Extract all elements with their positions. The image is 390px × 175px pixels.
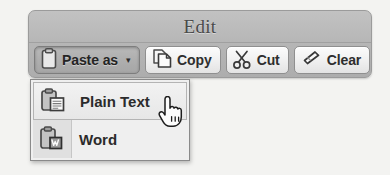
clipboard-word-icon [33, 125, 71, 153]
menu-item-plain-text-label: Plain Text [72, 93, 150, 110]
window-title: Edit [184, 16, 217, 38]
window-titlebar: Edit [29, 11, 371, 43]
copy-pages-icon [152, 48, 172, 73]
clear-label: Clear [327, 52, 362, 68]
menu-item-plain-text[interactable]: Plain Text [33, 82, 187, 120]
paste-as-dropdown-menu: Plain Text Word [30, 79, 190, 161]
chevron-down-icon: ▾ [126, 56, 131, 65]
screenshot-root: Edit Paste as ▾ [0, 0, 390, 175]
edit-window-panel: Edit Paste as ▾ [28, 10, 372, 78]
paste-as-label: Paste as [62, 52, 118, 68]
eraser-icon [301, 48, 322, 73]
scissors-icon [233, 48, 252, 73]
cut-label: Cut [257, 52, 280, 68]
copy-button[interactable]: Copy [145, 46, 221, 74]
cut-button[interactable]: Cut [226, 46, 289, 74]
clear-button[interactable]: Clear [294, 46, 371, 74]
paste-as-button[interactable]: Paste as ▾ [34, 46, 140, 74]
copy-label: Copy [177, 52, 212, 68]
clipboard-text-icon [34, 87, 72, 115]
edit-toolbar: Paste as ▾ Copy [31, 43, 369, 77]
menu-item-word-label: Word [71, 131, 117, 148]
menu-item-word[interactable]: Word [33, 120, 187, 158]
clipboard-icon [41, 48, 57, 73]
